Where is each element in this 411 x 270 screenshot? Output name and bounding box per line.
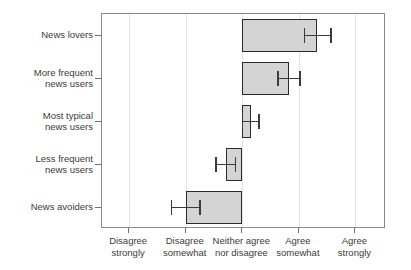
error-bar-cap-2-low <box>242 114 244 129</box>
x-tick-4 <box>354 228 355 233</box>
x-tick-0 <box>128 228 129 233</box>
y-axis-label-2: Most typical news users <box>43 110 93 132</box>
error-bar-cap-0-low <box>304 28 306 43</box>
y-tick-4 <box>95 207 101 208</box>
gridline-1 <box>129 14 130 227</box>
error-bar-cap-4-high <box>199 200 201 215</box>
y-axis-label-4: News avoiders <box>31 201 93 212</box>
y-tick-0 <box>95 35 101 36</box>
y-tick-2 <box>95 121 101 122</box>
x-axis-label-4: Agree strongly <box>308 235 400 258</box>
error-bar-line-2 <box>242 121 259 123</box>
error-bar-cap-1-low <box>277 71 279 86</box>
x-tick-2 <box>241 228 242 233</box>
plot-area <box>101 13 385 228</box>
error-bar-line-1 <box>278 78 300 80</box>
y-axis-label-1: More frequent news users <box>34 67 93 89</box>
error-bar-cap-1-high <box>299 71 301 86</box>
error-bar-cap-3-high <box>235 157 237 172</box>
error-bar-cap-4-low <box>171 200 173 215</box>
y-tick-1 <box>95 78 101 79</box>
y-axis-label-0: News lovers <box>41 29 93 40</box>
error-bar-line-4 <box>172 207 200 209</box>
x-tick-1 <box>185 228 186 233</box>
error-bar-line-0 <box>305 35 332 37</box>
error-bar-cap-3-low <box>215 157 217 172</box>
error-bar-line-3 <box>216 164 235 166</box>
y-axis-label-3: Less frequent news users <box>35 153 93 175</box>
error-bar-cap-2-high <box>258 114 260 129</box>
y-tick-3 <box>95 164 101 165</box>
error-bar-cap-0-high <box>330 28 332 43</box>
gridline-5 <box>355 14 356 227</box>
chart-container: News loversMore frequent news usersMost … <box>0 0 411 270</box>
x-tick-3 <box>298 228 299 233</box>
